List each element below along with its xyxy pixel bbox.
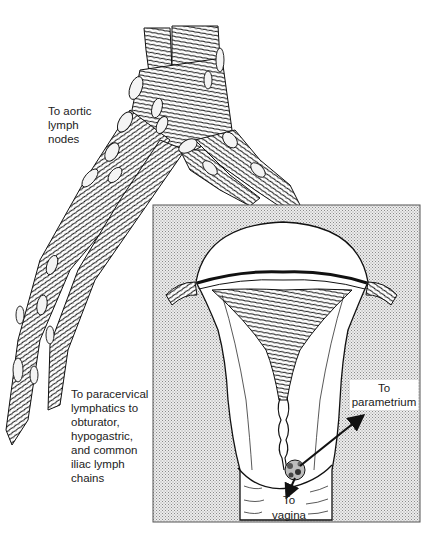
label-vagina: To vagina <box>264 493 314 523</box>
illustration-svg <box>0 0 431 535</box>
uterus-cervix-inset <box>153 205 420 522</box>
label-aortic-nodes: To aortic lymph nodes <box>48 104 91 146</box>
label-parametrium: To parametrium <box>350 380 418 410</box>
label-paracervical: To paracervical lymphatics to obturator,… <box>71 387 148 485</box>
anatomical-illustration: To aortic lymph nodes To paracervical ly… <box>0 0 431 535</box>
